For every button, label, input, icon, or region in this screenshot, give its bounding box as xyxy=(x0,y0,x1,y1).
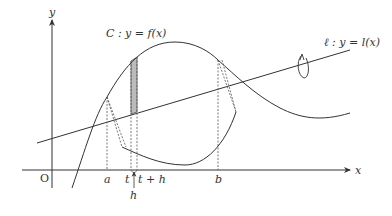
tick-label-h: h xyxy=(130,190,137,201)
x-axis-label: x xyxy=(355,165,361,176)
reflected-curve xyxy=(122,112,236,165)
diagram-canvas: y x O C : y = f(x) ℓ : y = l(x) a t t + … xyxy=(0,0,392,216)
diagram-svg xyxy=(0,0,392,216)
line-l xyxy=(37,50,350,143)
shaded-strip xyxy=(131,57,137,114)
y-axis-label: y xyxy=(49,7,55,18)
tick-label-b: b xyxy=(215,174,222,185)
origin-label: O xyxy=(40,173,49,184)
rotation-arrowhead-icon xyxy=(300,54,304,60)
tick-label-a: a xyxy=(104,174,111,185)
line-label: ℓ : y = l(x) xyxy=(324,37,380,48)
tick-label-t: t xyxy=(125,174,129,185)
tick-label-t-plus-h: t + h xyxy=(138,174,166,185)
dotted-proj-a-2 xyxy=(107,97,126,147)
curve-label: C : y = f(x) xyxy=(106,28,166,39)
